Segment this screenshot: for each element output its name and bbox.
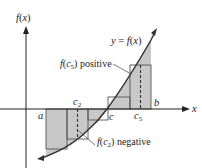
x-axis-arrow-icon xyxy=(182,106,190,112)
y-axis-label: f(x) xyxy=(16,12,31,24)
negative-annotation: f(c2) negative xyxy=(97,136,151,149)
curve-start-arrow-icon xyxy=(37,155,44,161)
point-b-label: b xyxy=(154,97,159,108)
point-c-label: c xyxy=(109,111,114,122)
point-c2-label: c2 xyxy=(73,96,82,109)
curve-end-arrow-icon xyxy=(151,28,157,36)
x-axis-label: x xyxy=(191,103,197,114)
negative-leader-line xyxy=(79,131,95,145)
positive-annotation: f(c5) positive xyxy=(60,58,112,71)
point-a-label: a xyxy=(38,110,43,121)
point-c5-label: c5 xyxy=(134,110,143,123)
curve-label: y = f(x) xyxy=(110,35,142,47)
y-axis-arrow-icon xyxy=(23,26,29,34)
positive-leader-line xyxy=(113,64,131,74)
riemann-sum-diagram: f(x) x y = f(x) a b c c2 c5 f(c5) positi… xyxy=(0,0,202,168)
axes xyxy=(0,26,190,168)
